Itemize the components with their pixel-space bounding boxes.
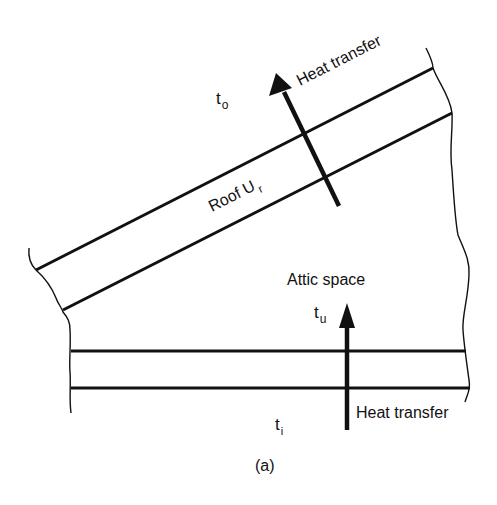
attic-space-label: Attic space xyxy=(287,271,365,288)
left-break-line xyxy=(29,248,71,413)
inside-temp-label: ti xyxy=(275,415,283,437)
outside-temp-label: to xyxy=(216,89,229,112)
roof-outer-line xyxy=(36,68,433,270)
ceiling-heat-arrow-icon xyxy=(339,303,355,430)
ceiling-heat-transfer-label: Heat transfer xyxy=(356,404,449,421)
roof-heat-arrow-icon xyxy=(269,73,339,206)
right-break-line xyxy=(426,48,470,402)
attic-roof-diagram: to Heat transfer Roof Ur Attic space tu … xyxy=(0,0,497,505)
roof-heat-transfer-label: Heat transfer xyxy=(294,31,385,88)
roof-inner-line xyxy=(63,113,452,310)
attic-temp-label: tu xyxy=(314,303,326,326)
figure-caption: (a) xyxy=(255,457,275,474)
